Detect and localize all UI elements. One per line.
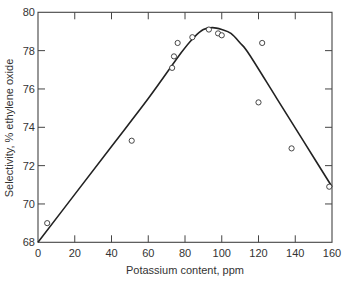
y-tick-label: 68	[23, 236, 35, 248]
data-point-marker	[171, 54, 176, 59]
x-tick-label: 20	[69, 247, 81, 259]
y-tick-label: 72	[23, 160, 35, 172]
data-point-marker	[175, 40, 180, 45]
x-tick-label: 100	[213, 247, 231, 259]
data-point-marker	[190, 35, 195, 40]
x-tick-label: 40	[105, 247, 117, 259]
data-point-marker	[170, 65, 175, 70]
y-tick-label: 80	[23, 6, 35, 18]
data-point-marker	[45, 221, 50, 226]
x-tick-label: 0	[35, 247, 41, 259]
data-point-marker	[260, 40, 265, 45]
x-axis-ticks: 020406080100120140160	[35, 12, 341, 259]
data-point-marker	[206, 27, 211, 32]
x-tick-label: 140	[286, 247, 304, 259]
trend-curve	[38, 28, 332, 243]
data-point-marker	[256, 100, 261, 105]
data-point-marker	[289, 146, 294, 151]
x-tick-label: 80	[179, 247, 191, 259]
x-tick-label: 160	[323, 247, 341, 259]
y-tick-label: 78	[23, 45, 35, 57]
data-point-marker	[129, 138, 134, 143]
trend-line	[38, 28, 332, 243]
data-points	[45, 27, 332, 226]
y-tick-label: 74	[23, 121, 35, 133]
x-tick-label: 60	[142, 247, 154, 259]
y-axis-title: Selectivity, % ethylene oxide	[3, 59, 15, 198]
selectivity-chart: 020406080100120140160 68707274767880 Pot…	[0, 0, 345, 283]
x-axis-title: Potassium content, ppm	[126, 264, 244, 276]
y-tick-label: 70	[23, 198, 35, 210]
x-tick-label: 120	[249, 247, 267, 259]
data-point-marker	[327, 184, 332, 189]
data-point-marker	[219, 33, 224, 38]
y-tick-label: 76	[23, 83, 35, 95]
